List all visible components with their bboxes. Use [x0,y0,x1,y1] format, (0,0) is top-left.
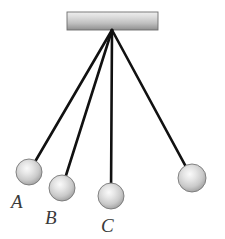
ceiling-support-bar [67,12,158,30]
pendulum-string-d [112,30,186,167]
pendulum-strings-group [35,30,187,185]
pendulum-canvas [0,0,225,239]
pendulum-label-c: C [101,216,114,235]
pendulum-string-c [111,30,112,185]
pendulum-figure: ABC [0,0,225,239]
support-bar-group [67,12,158,30]
pendulum-bob-d [178,164,206,192]
pendulum-label-b: B [45,208,57,227]
pendulum-label-a: A [11,192,23,211]
pendulum-bob-b [49,175,75,201]
pendulum-bob-a [16,159,42,185]
pendulum-string-a [35,30,112,163]
pendulum-string-b [65,30,112,178]
pendulum-bob-c [98,183,124,209]
